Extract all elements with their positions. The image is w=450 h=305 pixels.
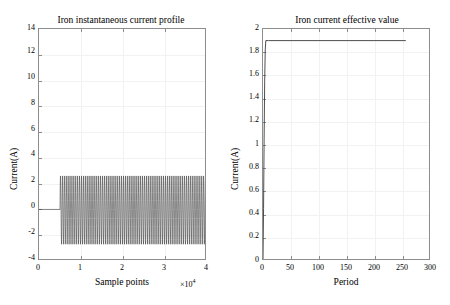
xtick-label: 250	[392, 264, 412, 272]
ytick-label: 1.4	[231, 93, 259, 101]
ytick-label: 8	[10, 99, 35, 107]
plot-area-right	[262, 28, 430, 260]
xtick-label: 200	[364, 264, 384, 272]
chart-panel-effective-value: Iron current effective value	[225, 0, 450, 305]
xtick-label: 2	[112, 264, 132, 272]
xtick-label: 0	[28, 264, 48, 272]
data-curve-effective-value	[263, 29, 430, 260]
exponent-prefix: ×10	[180, 280, 193, 289]
figure-canvas: Iron instantaneous current profile	[0, 0, 450, 305]
xaxis-label-right: Period	[276, 277, 416, 287]
plot-area-left	[38, 28, 206, 260]
xtick-label: 3	[154, 264, 174, 272]
ytick-label: 0	[10, 202, 35, 210]
xtick-label: 150	[336, 264, 356, 272]
chart-title-left: Iron instantaneous current profile	[36, 15, 206, 26]
xaxis-label-left: Sample points	[52, 277, 192, 287]
xtick-label: 0	[252, 264, 272, 272]
ytick-label: 1.8	[231, 47, 259, 55]
chart-title-right: Iron current effective value	[262, 15, 432, 26]
ytick-label: 1.2	[231, 116, 259, 124]
ytick-label: 2	[231, 24, 259, 32]
ytick-label: 1.6	[231, 70, 259, 78]
xaxis-exponent-left: ×104	[180, 278, 196, 289]
ytick-label: 14	[10, 24, 35, 32]
xtick-label: 300	[420, 264, 440, 272]
ytick-label: -4	[10, 254, 35, 262]
ytick-label: 0	[231, 256, 259, 264]
ytick-label: -2	[10, 228, 35, 236]
xtick-label: 4	[196, 264, 216, 272]
ytick-label: 10	[10, 73, 35, 81]
exponent-power: 4	[193, 278, 196, 284]
ytick-label: 6	[10, 125, 35, 133]
ytick-label: 12	[10, 47, 35, 55]
ytick-label: 1	[231, 140, 259, 148]
ytick-label: 0.2	[231, 232, 259, 240]
xtick-label: 100	[308, 264, 328, 272]
xtick-label: 50	[280, 264, 300, 272]
chart-panel-instantaneous-current: Iron instantaneous current profile	[0, 0, 225, 305]
xtick-label: 1	[70, 264, 90, 272]
yaxis-label-left: Current(A)	[9, 148, 19, 190]
data-curve-instantaneous-current	[39, 29, 206, 260]
yaxis-label-right: Current(A)	[230, 148, 240, 190]
ytick-label: 0.4	[231, 209, 259, 217]
